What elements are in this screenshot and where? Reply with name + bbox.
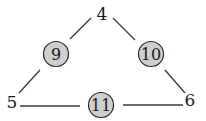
edge-node-left: 9	[44, 42, 69, 67]
edge-top-to-right	[113, 18, 135, 40]
corner-top-label: 4	[97, 4, 108, 24]
edge-node-bottom-label: 11	[91, 96, 111, 115]
edge-node-bottom: 11	[89, 93, 114, 118]
edge-node-right-label: 10	[141, 45, 161, 64]
edge-node-left-label: 9	[51, 45, 61, 64]
magic-triangle-diagram: 4 5 6 9 10 11	[0, 0, 206, 121]
edge-top-to-left	[70, 18, 91, 39]
corner-bottom-right-label: 6	[185, 90, 196, 110]
corner-bottom-left-label: 5	[7, 92, 18, 112]
edge-right-to-bottom-right	[165, 70, 185, 93]
edge-left-to-bottom-left	[19, 70, 40, 93]
edge-node-right: 10	[139, 42, 164, 67]
